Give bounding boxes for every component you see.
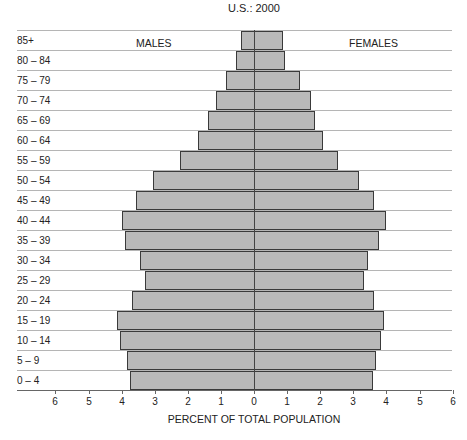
male-bar: [120, 331, 255, 350]
age-group-label: 75 – 79: [17, 71, 50, 91]
age-group-label: 15 – 19: [17, 311, 50, 331]
male-bar: [140, 251, 255, 270]
male-bar: [132, 291, 255, 310]
age-group-label: 55 – 59: [17, 151, 50, 171]
female-bar: [254, 311, 384, 330]
male-bar: [122, 211, 255, 230]
males-label: MALES: [136, 37, 172, 49]
x-tick-label: 1: [211, 396, 231, 407]
center-axis-line: [254, 30, 255, 391]
x-tick-mark: [254, 390, 255, 394]
male-bar: [153, 171, 255, 190]
chart-title: U.S.: 2000: [0, 2, 467, 14]
x-tick-mark: [386, 390, 387, 394]
age-group-label: 40 – 44: [17, 211, 50, 231]
male-bar: [198, 131, 255, 150]
female-bar: [254, 211, 386, 230]
male-bar: [127, 351, 255, 370]
x-tick-mark: [155, 390, 156, 394]
male-bar: [236, 51, 255, 70]
female-bar: [254, 371, 373, 390]
male-bar: [136, 191, 255, 210]
x-tick-mark: [122, 390, 123, 394]
x-tick-mark: [453, 390, 454, 394]
male-bar: [216, 91, 255, 110]
age-group-label: 45 – 49: [17, 191, 50, 211]
x-axis-title: PERCENT OF TOTAL POPULATION: [0, 413, 467, 425]
x-tick-label: 6: [45, 396, 65, 407]
female-bar: [254, 131, 323, 150]
x-tick-label: 3: [145, 396, 165, 407]
female-bar: [254, 351, 376, 370]
age-group-label: 30 – 34: [17, 251, 50, 271]
female-bar: [254, 171, 359, 190]
female-bar: [254, 291, 374, 310]
x-tick-label: 6: [443, 396, 463, 407]
male-bar: [145, 271, 255, 290]
gridline: [17, 30, 452, 31]
x-tick-label: 5: [410, 396, 430, 407]
male-bar: [241, 31, 255, 50]
female-bar: [254, 31, 283, 50]
females-label: FEMALES: [349, 37, 398, 49]
male-bar: [130, 371, 255, 390]
male-bar: [208, 111, 255, 130]
age-group-label: 0 – 4: [17, 371, 39, 391]
x-tick-label: 4: [376, 396, 396, 407]
male-bar: [226, 71, 255, 90]
age-group-label: 35 – 39: [17, 231, 50, 251]
x-tick-mark: [320, 390, 321, 394]
x-tick-label: 5: [79, 396, 99, 407]
age-group-label: 70 – 74: [17, 91, 50, 111]
female-bar: [254, 251, 368, 270]
age-group-label: 65 – 69: [17, 111, 50, 131]
female-bar: [254, 51, 285, 70]
age-group-label: 25 – 29: [17, 271, 50, 291]
x-tick-mark: [420, 390, 421, 394]
x-tick-mark: [287, 390, 288, 394]
x-tick-mark: [55, 390, 56, 394]
female-bar: [254, 331, 381, 350]
gridline: [17, 50, 452, 51]
female-bar: [254, 111, 315, 130]
female-bar: [254, 271, 364, 290]
female-bar: [254, 71, 300, 90]
age-group-label: 20 – 24: [17, 291, 50, 311]
x-tick-label: 2: [310, 396, 330, 407]
x-tick-label: 4: [112, 396, 132, 407]
population-pyramid-chart: U.S.: 2000 MALES FEMALES 85+80 – 8475 – …: [0, 0, 467, 440]
age-group-label: 60 – 64: [17, 131, 50, 151]
age-group-label: 50 – 54: [17, 171, 50, 191]
female-bar: [254, 191, 374, 210]
female-bar: [254, 231, 379, 250]
age-group-label: 10 – 14: [17, 331, 50, 351]
x-tick-label: 3: [343, 396, 363, 407]
x-tick-mark: [188, 390, 189, 394]
age-group-label: 80 – 84: [17, 51, 50, 71]
x-tick-mark: [89, 390, 90, 394]
female-bar: [254, 151, 338, 170]
male-bar: [180, 151, 255, 170]
x-tick-mark: [353, 390, 354, 394]
x-tick-label: 1: [277, 396, 297, 407]
x-tick-label: 2: [178, 396, 198, 407]
age-group-label: 5 – 9: [17, 351, 39, 371]
age-group-label: 85+: [17, 31, 34, 51]
male-bar: [125, 231, 255, 250]
female-bar: [254, 91, 311, 110]
male-bar: [117, 311, 255, 330]
x-tick-label: 0: [244, 396, 264, 407]
x-tick-mark: [221, 390, 222, 394]
